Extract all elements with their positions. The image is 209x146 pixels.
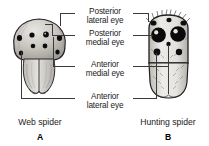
hunting-spider-svg (140, 8, 198, 104)
label-posterior-medial-eye: Posterior medial eye (78, 29, 132, 48)
leader-pl-right-v (148, 13, 149, 22)
eye-posterior-medial-left (29, 32, 34, 37)
leader-pm-left-h (52, 35, 75, 36)
eye-posterior-lateral-left (17, 35, 22, 41)
label-line-2: lateral eye (78, 101, 132, 110)
eye-anterior-lateral-right (55, 49, 59, 54)
leader-am-right-h (133, 66, 169, 67)
leader-al-left-h (21, 98, 75, 99)
leader-pl-right-h (133, 13, 149, 14)
leader-pl-left-h (60, 13, 75, 14)
eye-posterior-lateral-right (181, 20, 187, 25)
eye-posterior-lateral-mid (166, 18, 171, 22)
label-anterior-lateral-eye: Anterior lateral eye (78, 92, 132, 111)
eye-anterior-lateral-left (154, 49, 161, 56)
caption-hunting-spider: Hunting spider (128, 117, 208, 127)
label-line-2: lateral eye (78, 16, 132, 25)
label-posterior-lateral-eye: Posterior lateral eye (78, 7, 132, 26)
eye-anterior-lateral-right (176, 49, 182, 55)
label-line-1: Anterior (78, 60, 132, 69)
label-line-2: medial eye (78, 38, 132, 47)
label-line-2: medial eye (78, 69, 132, 78)
leader-am-left-h (53, 66, 75, 67)
leader-al-right-h (133, 98, 157, 99)
hunting-spider-illustration (140, 8, 198, 104)
leader-al-left-v (21, 52, 22, 99)
label-anterior-medial-eye: Anterior medial eye (78, 60, 132, 79)
eye-posterior-medial-right (43, 32, 49, 38)
plate-letter-a: A (4, 132, 76, 142)
eye-posterior-medial-right (170, 26, 186, 42)
eye-anterior-medial-right (43, 44, 48, 49)
eye-posterior-medial-left (151, 28, 166, 43)
leader-am-right-v (168, 45, 169, 67)
plate-letter-b: B (128, 132, 208, 142)
leader-pm-left-v (52, 24, 53, 36)
web-spider-svg (8, 12, 72, 98)
leader-pm-left-h2 (45, 24, 53, 25)
leader-pl-left-v (60, 13, 61, 26)
label-line-1: Anterior (78, 92, 132, 101)
leader-al-right-v (156, 53, 157, 99)
leader-pm-right-h (133, 35, 153, 36)
eye-posterior-lateral-left (151, 20, 157, 25)
web-spider-illustration (8, 12, 72, 98)
leader-am-left-v (53, 37, 54, 67)
eye-anterior-medial-left (31, 44, 36, 49)
label-line-1: Posterior (78, 7, 132, 16)
caption-web-spider: Web spider (4, 117, 76, 127)
spider-eye-diagram: Posterior lateral eye Posterior medial e… (0, 0, 209, 146)
label-line-1: Posterior (78, 29, 132, 38)
